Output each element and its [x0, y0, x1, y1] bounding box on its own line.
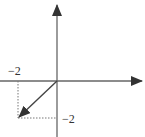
vector-arrow [19, 81, 57, 117]
y-component-label: −2 [62, 112, 75, 126]
x-component-label: −2 [8, 64, 21, 78]
vector-diagram: −2 −2 [0, 0, 145, 137]
